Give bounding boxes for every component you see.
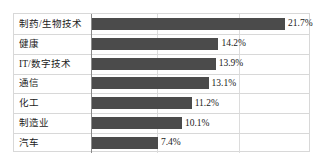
value-label: 11.2%	[195, 98, 219, 109]
category-label: 通信	[19, 78, 89, 89]
category-label: 汽车	[19, 137, 89, 148]
bar-row: 制造业 10.1%	[14, 113, 309, 133]
bar	[92, 38, 218, 50]
bar	[92, 18, 285, 30]
bar-row: 健康 14.2%	[14, 34, 309, 54]
bar	[92, 117, 182, 129]
bar-row: 汽车 7.4%	[14, 133, 309, 153]
value-label: 21.7%	[288, 18, 313, 29]
bar-group: 13.9%	[92, 54, 243, 74]
category-label: 制药/生物技术	[19, 18, 89, 29]
bar-row: 制药/生物技术 21.7%	[14, 14, 309, 34]
category-label: 健康	[19, 38, 89, 49]
bar-row: 化工 11.2%	[14, 93, 309, 113]
bar-rows: 制药/生物技术 21.7% 健康 14.2% IT/数字技术 13.9%	[14, 14, 309, 153]
value-label: 13.1%	[212, 78, 237, 89]
category-label: 制造业	[19, 118, 89, 129]
bar-row: IT/数字技术 13.9%	[14, 54, 309, 74]
bar-row: 通信 13.1%	[14, 74, 309, 94]
bar-group: 13.1%	[92, 74, 236, 94]
value-label: 10.1%	[185, 118, 210, 129]
bar-group: 10.1%	[92, 113, 209, 133]
value-label: 13.9%	[219, 58, 244, 69]
plot-area: 制药/生物技术 21.7% 健康 14.2% IT/数字技术 13.9%	[13, 13, 310, 152]
bar-chart: 制药/生物技术 21.7% 健康 14.2% IT/数字技术 13.9%	[0, 0, 325, 164]
value-label: 7.4%	[161, 137, 181, 148]
bar-group: 21.7%	[92, 14, 313, 34]
bar-group: 11.2%	[92, 93, 219, 113]
bar-group: 14.2%	[92, 34, 246, 54]
value-axis-line	[91, 14, 92, 153]
bar	[92, 137, 158, 149]
bar-group: 7.4%	[92, 133, 181, 153]
bar	[92, 58, 216, 70]
category-label: 化工	[19, 98, 89, 109]
category-label: IT/数字技术	[19, 58, 89, 69]
bar	[92, 97, 192, 109]
bar	[92, 77, 209, 89]
value-label: 14.2%	[221, 38, 246, 49]
